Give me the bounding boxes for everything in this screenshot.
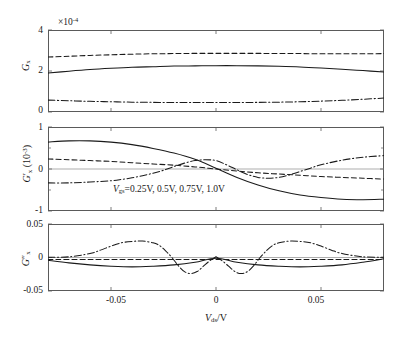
- panel1-plot-area: [48, 30, 384, 112]
- panel2-ytick-0: 0: [22, 165, 43, 175]
- figure-root: ×10-4 Gx 4 2 0 G′x (10-3) 1 0 -1 Vgs=0.2…: [0, 0, 403, 341]
- panel1-ytick-0: 0: [26, 106, 43, 116]
- panel3-ytick-neg: -0.05: [10, 286, 43, 296]
- panel1-ytick-4: 4: [26, 26, 43, 36]
- panel3-plot-area: [48, 224, 384, 291]
- panel2-ytick-1: 1: [26, 123, 43, 133]
- panel1-ytick-2: 2: [26, 66, 43, 76]
- legend-vgs-values: Vgs=0.25V, 0.5V, 0.75V, 1.0V: [113, 184, 225, 194]
- xtick-0: 0: [196, 296, 236, 306]
- x-axis-label: Vds/V: [176, 312, 256, 323]
- xtick-005: 0.05: [296, 296, 336, 306]
- series-Vgs=1.0V: [48, 98, 384, 103]
- panel3-ytick-0: 0: [14, 253, 43, 263]
- panel3-ytick-pos: 0.05: [14, 220, 43, 230]
- series-Vgs=0.75V: [48, 66, 384, 73]
- panel2-plot-area: [48, 127, 384, 211]
- panel1-multiplier: ×10-4: [58, 16, 78, 27]
- series-Vgs=0.5V: [48, 53, 384, 57]
- xtick-neg005: -0.05: [96, 296, 136, 306]
- panel2-ytick-neg1: -1: [22, 206, 43, 216]
